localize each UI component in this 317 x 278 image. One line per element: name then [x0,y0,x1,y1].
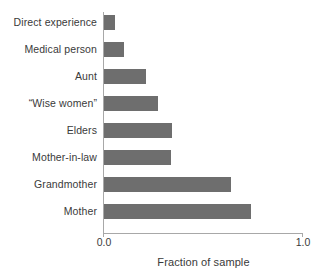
category-label-grandmother: Grandmother [0,178,97,190]
category-label-aunt: Aunt [0,70,97,82]
bar-wise-women [104,96,158,111]
x-tick-label-0: 0.0 [84,236,124,248]
bar-mother-in-law [104,150,171,165]
plot-area [104,12,303,233]
category-label-elders: Elders [0,124,97,136]
category-label-mother: Mother [0,205,97,217]
category-label-direct-experience: Direct experience [0,16,97,28]
bar-aunt [104,69,146,84]
bar-medical-person [104,42,124,57]
category-label-mother-in-law: Mother-in-law [0,151,97,163]
x-axis-title: Fraction of sample [104,256,303,269]
bar-mother [104,204,251,219]
category-axis-labels: Direct experience Medical person Aunt “W… [0,12,97,233]
x-axis-line [103,233,303,234]
bar-chart: Direct experience Medical person Aunt “W… [0,0,317,278]
bar-direct-experience [104,15,115,30]
bar-grandmother [104,177,231,192]
x-tick-label-1: 1.0 [283,236,317,248]
category-label-medical-person: Medical person [0,43,97,55]
category-label-wise-women: “Wise women” [0,97,97,109]
bar-elders [104,123,172,138]
